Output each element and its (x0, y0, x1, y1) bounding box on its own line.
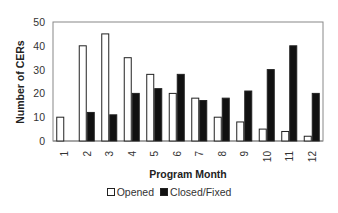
legend: Opened Closed/Fixed (0, 186, 338, 198)
y-tick-label: 50 (33, 16, 45, 28)
y-tick-label: 20 (33, 87, 45, 99)
x-tick-label: 4 (127, 151, 138, 157)
y-tick-label: 30 (33, 64, 45, 76)
x-tick-label: 8 (217, 151, 228, 157)
bar-closed (155, 89, 162, 141)
x-tick-label: 9 (239, 151, 250, 157)
bar-closed (132, 93, 139, 141)
closed-swatch-icon (160, 188, 168, 196)
x-tick-label: 2 (82, 151, 93, 157)
bar-opened (102, 34, 109, 141)
x-tick-label: 1 (59, 151, 70, 157)
bar-opened (259, 129, 266, 141)
bar-closed (312, 93, 319, 141)
bar-opened (304, 136, 311, 141)
bar-closed (290, 46, 297, 141)
bar-opened (282, 131, 289, 141)
opened-swatch-icon (107, 188, 115, 196)
x-tick-label: 12 (307, 151, 318, 163)
x-axis: 123456789101112 (59, 151, 318, 163)
legend-item-closed: Closed/Fixed (160, 186, 231, 198)
bar-closed (87, 112, 94, 141)
y-axis-label: Number of CERs (14, 40, 26, 124)
x-axis-label: Program Month (149, 168, 227, 180)
bar-closed (222, 98, 229, 141)
bar-opened (214, 117, 221, 141)
bar-closed (110, 115, 117, 141)
bar-opened (147, 74, 154, 141)
x-tick-label: 11 (284, 151, 295, 162)
x-tick-label: 5 (149, 151, 160, 157)
x-tick-label: 6 (172, 151, 183, 157)
bar-opened (57, 117, 64, 141)
bars (57, 34, 320, 141)
x-tick-label: 7 (194, 151, 205, 157)
bar-closed (245, 91, 252, 141)
legend-label-opened: Opened (117, 186, 154, 198)
bar-opened (124, 58, 131, 141)
bar-chart: 01020304050 123456789101112 Number of CE… (0, 0, 338, 213)
y-tick-label: 10 (33, 111, 45, 123)
x-tick-label: 3 (104, 151, 115, 157)
y-axis: 01020304050 (33, 16, 45, 147)
bar-closed (267, 70, 274, 141)
bar-closed (177, 74, 184, 141)
legend-label-closed: Closed/Fixed (170, 186, 231, 198)
y-tick-label: 40 (33, 40, 45, 52)
bar-opened (169, 93, 176, 141)
bar-opened (237, 122, 244, 141)
x-tick-label: 10 (262, 151, 273, 163)
bar-closed (200, 101, 207, 141)
bar-opened (192, 98, 199, 141)
legend-item-opened: Opened (107, 186, 154, 198)
bar-opened (79, 46, 86, 141)
y-tick-label: 0 (39, 135, 45, 147)
